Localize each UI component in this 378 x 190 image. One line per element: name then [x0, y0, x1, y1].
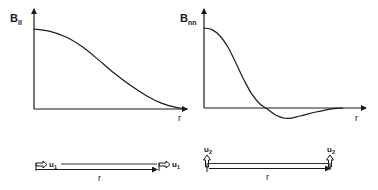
velocity-diagram-u2: u2 u2 r [204, 145, 335, 182]
u1-right-arrow-icon [159, 161, 170, 168]
u2-right-label: u2 [327, 145, 335, 155]
bnn-curve [204, 28, 343, 118]
figure: Bll r Bnn r u1 u1 r u2 u2 r [0, 0, 378, 190]
u1-right-label: u1 [172, 160, 180, 170]
u2-r-label: r [266, 172, 269, 182]
bll-curve [34, 29, 188, 109]
panel-bll: Bll r [10, 9, 188, 123]
u1-left-arrow-icon [36, 161, 47, 168]
u1-left-label: u1 [49, 160, 57, 170]
velocity-diagram-u1: u1 u1 r [36, 160, 180, 183]
bnn-x-label: r [355, 113, 358, 123]
bll-y-label: Bll [10, 12, 22, 26]
u1-r-label: r [98, 173, 101, 183]
bnn-y-label: Bnn [180, 12, 197, 26]
bll-x-label: r [178, 113, 181, 123]
u2-left-label: u2 [204, 145, 212, 155]
panel-bnn: Bnn r [180, 9, 366, 123]
